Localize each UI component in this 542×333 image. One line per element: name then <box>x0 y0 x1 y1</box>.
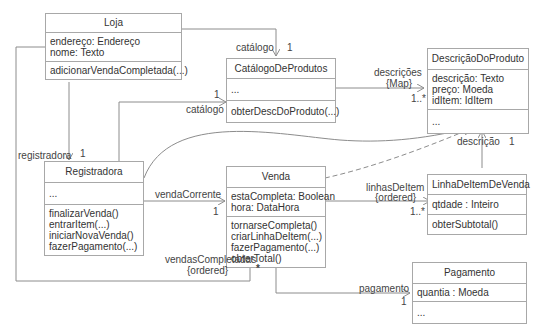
class-descricao-do-produto[interactable]: DescriçãoDoProduto descrição: Texto preç… <box>427 48 529 134</box>
mult-pagamento: 1 <box>401 296 407 307</box>
role-venda-corrente: vendaCorrente <box>155 189 221 200</box>
mult-descricoes: 1..* <box>411 93 426 104</box>
attribute: idItem: IdItem <box>432 95 524 106</box>
class-name: DescriçãoDoProduto <box>428 49 528 70</box>
operation: tornarseCompleta() <box>231 220 321 231</box>
role-catalogo-top: catálogo <box>236 42 274 53</box>
attributes-section: ... <box>227 79 335 101</box>
operation: obterSubtotal() <box>432 219 522 230</box>
attributes-section: descrição: Texto preço: Moeda idItem: Id… <box>428 70 528 110</box>
class-pagamento[interactable]: Pagamento quantia : Moeda ... <box>412 262 527 324</box>
attribute: nome: Texto <box>50 47 177 58</box>
attribute: preço: Moeda <box>432 84 524 95</box>
class-catalogo-de-produtos[interactable]: CatálogoDeProdutos ... obterDescDoProdut… <box>226 58 336 123</box>
attributes-section: quantia : Moeda <box>413 284 526 302</box>
class-name: Registradora <box>45 162 143 183</box>
class-loja[interactable]: Loja endereço: Endereço nome: Texto adic… <box>45 13 182 80</box>
attributes-section: endereço: Endereço nome: Texto <box>46 33 181 62</box>
mult-catalogo-left: 1 <box>214 89 220 100</box>
operation: adicionarVendaCompletada(...) <box>50 65 177 76</box>
class-name: Loja <box>46 14 181 33</box>
role-registradora: registradora <box>18 150 71 161</box>
mult-vendas-completadas: * <box>256 263 260 274</box>
attribute: descrição: Texto <box>432 73 524 84</box>
mult-catalogo-top: 1 <box>287 42 293 53</box>
operation: fazerPagamento(...) <box>231 242 321 253</box>
attribute: ... <box>231 84 331 95</box>
class-name: CatálogoDeProdutos <box>227 59 335 79</box>
qualifier-vendas-completadas: {ordered} <box>187 265 228 276</box>
operation: ... <box>417 307 522 318</box>
operation: fazerPagamento(...) <box>49 241 139 252</box>
class-name: Venda <box>227 167 325 188</box>
dashed-venda-descricao <box>325 129 470 178</box>
operation: iniciarNovaVenda() <box>49 230 139 241</box>
attributes-section: ... <box>45 183 143 205</box>
operations-section: obterSubtotal() <box>428 215 526 234</box>
mult-linhas-de-item: 1..* <box>410 206 425 217</box>
mult-venda-corrente: 1 <box>213 206 219 217</box>
role-descricoes: descrições <box>374 67 422 78</box>
operation: criarLinhaDeItem(...) <box>231 231 321 242</box>
role-vendas-completadas: vendasCompletadas <box>165 254 256 265</box>
role-descricao: descrição <box>457 136 500 147</box>
qualifier-descricoes: {Map} <box>386 78 412 89</box>
operation: ... <box>432 116 524 127</box>
class-venda[interactable]: Venda estaCompleta: Boolean hora: DataHo… <box>226 166 326 268</box>
attribute: estaCompleta: Boolean <box>231 191 321 202</box>
role-catalogo-left: catálogo <box>186 104 224 115</box>
operations-section: adicionarVendaCompletada(...) <box>46 62 181 79</box>
attributes-section: qtdade : Inteiro <box>428 195 526 215</box>
attribute: qtdade : Inteiro <box>432 199 522 210</box>
operation: finalizarVenda() <box>49 208 139 219</box>
attribute: ... <box>49 188 139 199</box>
role-pagamento: pagamento <box>359 283 409 294</box>
operation: obterDescDoProduto(...) <box>231 106 331 117</box>
attributes-section: estaCompleta: Boolean hora: DataHora <box>227 188 325 217</box>
qualifier-linhas-de-item: {ordered} <box>375 192 416 203</box>
class-name: LinhaDeItemDeVenda <box>428 175 526 195</box>
operations-section: ... <box>428 110 528 133</box>
mult-descricao: 1 <box>509 136 515 147</box>
class-registradora[interactable]: Registradora ... finalizarVenda() entrar… <box>44 161 144 256</box>
class-name: Pagamento <box>413 263 526 284</box>
attribute: endereço: Endereço <box>50 36 177 47</box>
attribute: quantia : Moeda <box>417 287 522 298</box>
operations-section: ... <box>413 302 526 323</box>
operations-section: finalizarVenda() entrarItem(...) iniciar… <box>45 205 143 255</box>
mult-registradora: 1 <box>80 148 86 159</box>
class-linha-de-item-de-venda[interactable]: LinhaDeItemDeVenda qtdade : Inteiro obte… <box>427 174 527 235</box>
attribute: hora: DataHora <box>231 202 321 213</box>
operations-section: obterDescDoProduto(...) <box>227 101 335 122</box>
operation: entrarItem(...) <box>49 219 139 230</box>
